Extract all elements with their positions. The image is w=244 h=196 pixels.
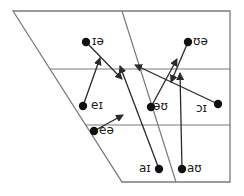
dot-ua	[184, 38, 192, 46]
label-ei: eɪ	[91, 99, 103, 111]
label-ea: eə	[99, 124, 114, 136]
diphthong-vowel-chart	[0, 0, 244, 196]
label-ai: aɪ	[139, 162, 151, 174]
label-ua: ʊə	[193, 35, 208, 47]
vertical-divider	[122, 11, 176, 182]
arrow-ai	[120, 66, 159, 169]
dot-aw	[178, 165, 186, 173]
dot-ei	[79, 102, 87, 110]
arrow-oi	[135, 65, 218, 104]
label-ia: ɪə	[92, 35, 104, 47]
label-oi: ɔɪ	[196, 102, 207, 114]
dot-ia	[82, 38, 90, 46]
dot-ea	[90, 127, 98, 135]
label-aw: aʊ	[187, 162, 202, 174]
label-au_o: əʊ	[153, 100, 168, 112]
dot-ai	[155, 165, 163, 173]
dot-oi	[214, 100, 222, 108]
